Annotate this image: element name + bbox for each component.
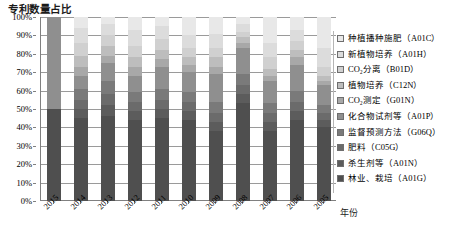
bar-stack[interactable] (155, 17, 169, 200)
bar-segment[interactable] (290, 57, 304, 64)
bar-segment[interactable] (128, 67, 142, 76)
bar-segment[interactable] (263, 57, 277, 68)
bar-segment[interactable] (155, 17, 169, 26)
bar-segment[interactable] (290, 30, 304, 41)
bar-stack[interactable] (47, 17, 61, 200)
legend-item[interactable]: 化合物试剂等（A01P） (337, 109, 439, 124)
bar-segment[interactable] (290, 91, 304, 102)
bar-segment[interactable] (128, 102, 142, 111)
bar-segment[interactable] (263, 103, 277, 112)
bar-stack[interactable] (74, 17, 88, 200)
bar-segment[interactable] (209, 67, 223, 74)
bar-segment[interactable] (182, 65, 196, 72)
bar-segment[interactable] (182, 120, 196, 201)
bar-segment[interactable] (236, 85, 250, 94)
bar-segment[interactable] (209, 113, 223, 122)
bar-segment[interactable] (236, 17, 250, 24)
legend-item[interactable]: 新植物培养（A01H） (337, 47, 432, 62)
bar-segment[interactable] (128, 76, 142, 93)
bar-segment[interactable] (101, 17, 115, 24)
bar-segment[interactable] (101, 56, 115, 63)
bar-segment[interactable] (317, 120, 331, 127)
bar-segment[interactable] (128, 17, 142, 30)
bar-segment[interactable] (317, 67, 331, 76)
bar-segment[interactable] (290, 41, 304, 50)
bar-segment[interactable] (209, 74, 223, 102)
bar-segment[interactable] (74, 17, 88, 28)
bar-segment[interactable] (290, 50, 304, 57)
bar-segment[interactable] (209, 34, 223, 49)
bar-segment[interactable] (290, 120, 304, 201)
bar-segment[interactable] (209, 17, 223, 34)
bar-stack[interactable] (209, 17, 223, 200)
bar-segment[interactable] (236, 94, 250, 103)
legend-item[interactable]: 肥料（C05G） (337, 140, 404, 155)
bar-segment[interactable] (101, 46, 115, 55)
bar-segment[interactable] (209, 131, 223, 201)
bar-segment[interactable] (209, 57, 223, 66)
bar-segment[interactable] (263, 69, 277, 76)
bar-stack[interactable] (236, 17, 250, 200)
bar-segment[interactable] (47, 17, 61, 109)
bar-segment[interactable] (317, 85, 331, 105)
bar-segment[interactable] (263, 17, 277, 43)
bar-stack[interactable] (128, 17, 142, 200)
bar-segment[interactable] (182, 57, 196, 64)
bar-segment[interactable] (317, 105, 331, 112)
bar-segment[interactable] (182, 92, 196, 101)
bar-segment[interactable] (182, 102, 196, 111)
bar-segment[interactable] (155, 109, 169, 118)
bar-segment[interactable] (155, 118, 169, 201)
bar-segment[interactable] (209, 48, 223, 57)
bar-segment[interactable] (263, 122, 277, 131)
bar-segment[interactable] (155, 67, 169, 89)
bar-segment[interactable] (128, 30, 142, 47)
bar-segment[interactable] (155, 100, 169, 109)
bar-segment[interactable] (128, 111, 142, 120)
bar-stack[interactable] (263, 17, 277, 200)
bar-segment[interactable] (128, 92, 142, 101)
legend-item[interactable]: 植物培养（C12N） (337, 78, 422, 93)
bar-segment[interactable] (263, 81, 277, 103)
bar-segment[interactable] (317, 113, 331, 120)
bar-segment[interactable] (74, 56, 88, 67)
bar-stack[interactable] (101, 17, 115, 200)
bar-segment[interactable] (236, 24, 250, 31)
bar-segment[interactable] (209, 102, 223, 113)
bar-segment[interactable] (290, 111, 304, 120)
bar-segment[interactable] (290, 17, 304, 30)
bar-segment[interactable] (101, 63, 115, 81)
bar-segment[interactable] (128, 57, 142, 66)
bar-segment[interactable] (101, 94, 115, 105)
bar-segment[interactable] (263, 131, 277, 201)
legend-item[interactable]: CO₂测定（G01N） (337, 93, 420, 108)
bar-segment[interactable] (317, 127, 331, 201)
bar-stack[interactable] (290, 17, 304, 200)
bar-segment[interactable] (74, 67, 88, 76)
legend-item[interactable]: 杀生剂等（A01N） (337, 156, 423, 171)
legend-item[interactable]: 林业、栽培（A01G） (337, 171, 432, 186)
legend-item[interactable]: 种植播种施肥（A01C） (337, 31, 440, 46)
bar-segment[interactable] (209, 122, 223, 131)
bar-segment[interactable] (155, 59, 169, 66)
bar-segment[interactable] (74, 89, 88, 100)
bar-segment[interactable] (263, 113, 277, 122)
bar-segment[interactable] (182, 35, 196, 48)
bar-segment[interactable] (155, 26, 169, 39)
bar-segment[interactable] (128, 46, 142, 57)
bar-stack[interactable] (182, 17, 196, 200)
legend-item[interactable]: CO₂分离（B01D） (337, 62, 419, 77)
bar-segment[interactable] (47, 109, 61, 201)
bar-segment[interactable] (182, 17, 196, 35)
bar-segment[interactable] (101, 81, 115, 94)
bar-segment[interactable] (263, 43, 277, 58)
bar-segment[interactable] (101, 105, 115, 116)
bar-segment[interactable] (317, 17, 331, 48)
bar-segment[interactable] (101, 24, 115, 35)
bar-segment[interactable] (155, 89, 169, 100)
bar-segment[interactable] (290, 102, 304, 111)
bar-segment[interactable] (182, 48, 196, 57)
bar-segment[interactable] (290, 65, 304, 91)
bar-segment[interactable] (101, 116, 115, 201)
bar-segment[interactable] (182, 111, 196, 120)
